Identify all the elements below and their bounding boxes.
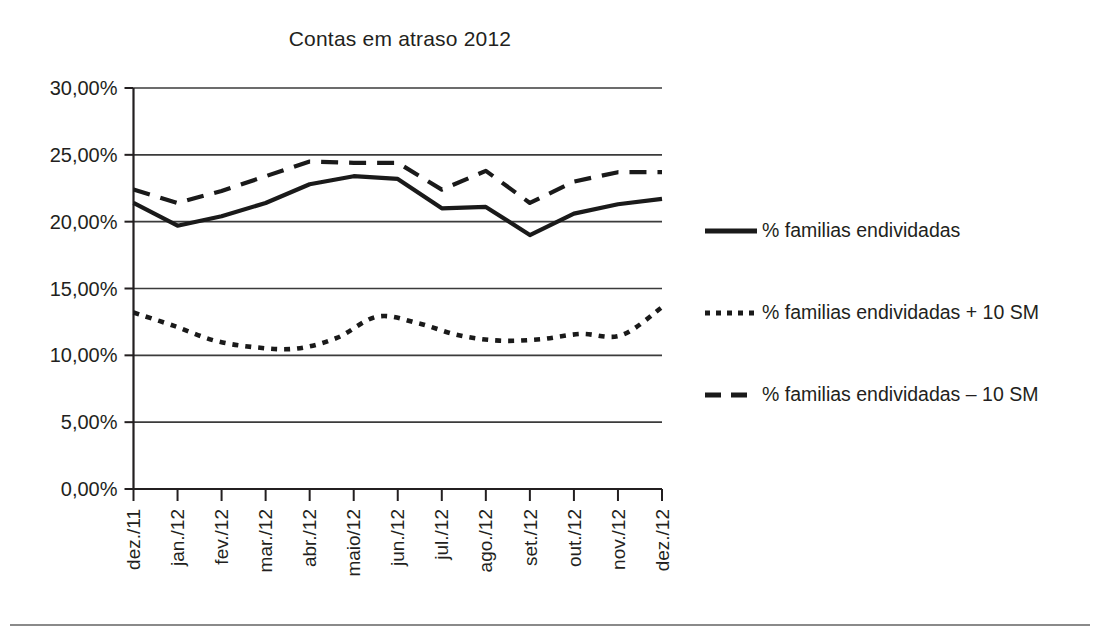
chart-title: Contas em atraso 2012 [0, 27, 800, 51]
x-tick-label: abr./12 [299, 509, 320, 567]
x-axis-tick-labels: dez./11jan./12fev./12mar./12abr./12maio/… [123, 509, 673, 577]
series-line-1 [134, 307, 663, 349]
legend-label-2: % familias endividadas – 10 SM [762, 385, 1038, 405]
series-line-2 [134, 162, 663, 203]
y-axis [125, 88, 134, 489]
x-tick-label: out./12 [564, 509, 585, 567]
y-axis-tick-labels: 0,00%5,00%10,00%15,00%20,00%25,00%30,00% [50, 77, 118, 500]
footer-divider [10, 624, 1090, 626]
x-tick-label: ago./12 [475, 509, 496, 572]
x-tick-label: dez./11 [123, 509, 144, 570]
x-tick-label: set./12 [520, 509, 541, 566]
y-tick-label: 20,00% [50, 211, 118, 233]
x-tick-label: jul./12 [431, 509, 452, 561]
y-tick-label: 30,00% [50, 77, 118, 99]
x-tick-label: nov./12 [608, 509, 629, 570]
legend-label-1: % familias endividadas + 10 SM [762, 303, 1039, 323]
x-tick-label: fev./12 [211, 509, 232, 565]
x-axis [134, 489, 663, 501]
x-tick-label: dez./12 [652, 509, 673, 571]
x-tick-label: mar./12 [255, 509, 276, 572]
y-tick-label: 25,00% [50, 144, 118, 166]
y-tick-label: 15,00% [50, 278, 118, 300]
y-tick-label: 0,00% [61, 478, 118, 500]
x-tick-label: jun./12 [387, 509, 408, 567]
chart-figure: Contas em atraso 2012 0,00%5,00%10,00%15… [0, 0, 1102, 637]
x-tick-label: maio/12 [343, 509, 364, 577]
legend-label-0: % familias endividadas [762, 221, 960, 241]
x-tick-label: jan./12 [167, 509, 188, 567]
series-line-0 [134, 176, 663, 235]
y-tick-label: 10,00% [50, 344, 118, 366]
data-series-group [134, 162, 663, 350]
y-tick-label: 5,00% [61, 411, 118, 433]
gridlines [134, 88, 663, 489]
